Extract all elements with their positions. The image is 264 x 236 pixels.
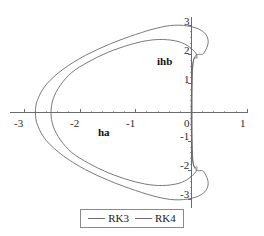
y-tick-label-pos3: 3 xyxy=(184,16,190,27)
legend-label-rk4: RK4 xyxy=(155,213,176,224)
plot-area: -3 -2 -1 0 1 3 2 1 -1 -2 -3 ihb ha RK3 R… xyxy=(0,0,264,236)
y-tick-label-neg3: -3 xyxy=(180,189,189,200)
y-tick-label-pos2: 2 xyxy=(184,45,190,56)
x-tick-label-neg1: -1 xyxy=(126,118,135,129)
legend-swatch-rk3 xyxy=(88,218,105,219)
y-tick-label-pos1: 1 xyxy=(184,74,190,85)
legend-entry-rk4[interactable]: RK4 xyxy=(132,213,179,224)
x-tick-label-neg3: -3 xyxy=(14,118,23,129)
x-tick-label-zero: 0 xyxy=(184,118,190,129)
x-tick-label-pos1: 1 xyxy=(240,118,246,129)
y-axis-label-ihb: ihb xyxy=(157,56,172,67)
x-tick-label-neg2: -2 xyxy=(70,118,79,129)
chart-legend: RK3 RK4 xyxy=(80,209,184,228)
x-axis-label-ha: ha xyxy=(98,127,110,138)
legend-swatch-rk4 xyxy=(135,218,152,219)
axes-group xyxy=(10,17,247,208)
y-tick-label-neg1: -1 xyxy=(180,131,189,142)
legend-label-rk3: RK3 xyxy=(108,213,129,224)
y-tick-label-neg2: -2 xyxy=(180,160,189,171)
legend-entry-rk3[interactable]: RK3 xyxy=(85,213,132,224)
